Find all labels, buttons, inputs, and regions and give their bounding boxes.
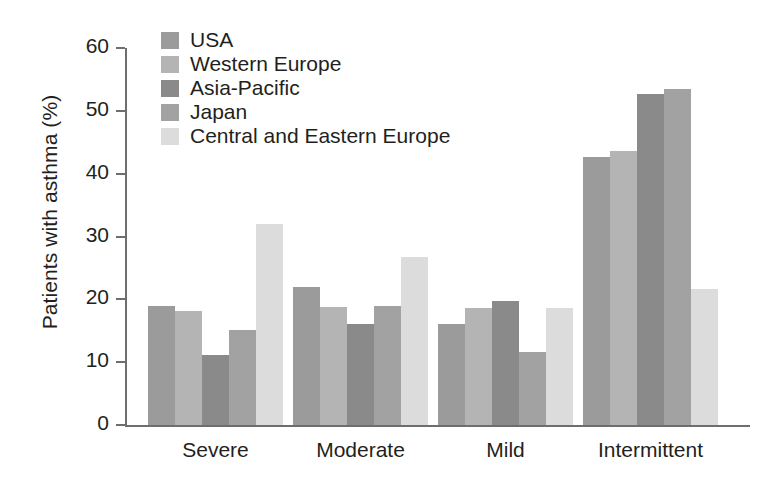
- legend: USAWestern EuropeAsia-PacificJapanCentra…: [161, 28, 450, 148]
- y-tick-0: 0: [116, 424, 125, 426]
- bar-intermittent-asia-pacific: [637, 94, 664, 425]
- x-axis-label-moderate: Moderate: [293, 438, 428, 462]
- bar-mild-usa: [438, 324, 465, 425]
- bar-intermittent-japan: [664, 89, 691, 425]
- bar-severe-usa: [148, 306, 175, 425]
- legend-item-japan: Japan: [161, 100, 450, 124]
- bar-moderate-usa: [293, 287, 320, 425]
- bar-group-mild: Mild: [438, 48, 573, 425]
- bar-moderate-japan: [374, 306, 401, 425]
- bar-intermittent-western-europe: [610, 151, 637, 425]
- legend-item-western-europe: Western Europe: [161, 52, 450, 76]
- x-axis-label-severe: Severe: [148, 438, 283, 462]
- bar-severe-japan: [229, 330, 256, 425]
- y-axis-line: [125, 48, 127, 425]
- legend-swatch-icon: [161, 128, 179, 145]
- bar-moderate-central-and-eastern-europe: [401, 257, 428, 425]
- bar-severe-asia-pacific: [202, 355, 229, 425]
- bar-moderate-asia-pacific: [347, 324, 374, 425]
- y-tick-30: 30: [116, 236, 125, 238]
- legend-item-central-and-eastern-europe: Central and Eastern Europe: [161, 124, 450, 148]
- y-tick-label-20: 20: [86, 285, 109, 309]
- y-tick-label-40: 40: [86, 160, 109, 184]
- legend-label: Central and Eastern Europe: [190, 124, 450, 148]
- bar-group-intermittent: Intermittent: [583, 48, 718, 425]
- legend-label: Western Europe: [190, 52, 341, 76]
- bar-mild-central-and-eastern-europe: [546, 308, 573, 425]
- bar-moderate-western-europe: [320, 307, 347, 425]
- bar-severe-western-europe: [175, 311, 202, 425]
- x-axis-label-mild: Mild: [438, 438, 573, 462]
- bar-mild-japan: [519, 352, 546, 426]
- y-tick-10: 10: [116, 361, 125, 363]
- bar-severe-central-and-eastern-europe: [256, 224, 283, 425]
- bar-mild-asia-pacific: [492, 301, 519, 425]
- legend-swatch-icon: [161, 80, 179, 97]
- x-axis-line: [125, 425, 750, 427]
- legend-swatch-icon: [161, 32, 179, 49]
- y-tick-60: 60: [116, 47, 125, 49]
- bar-intermittent-usa: [583, 157, 610, 425]
- legend-label: Japan: [190, 100, 247, 124]
- y-axis-title: Patients with asthma (%): [38, 12, 62, 412]
- legend-item-usa: USA: [161, 28, 450, 52]
- y-tick-label-30: 30: [86, 223, 109, 247]
- legend-label: USA: [190, 28, 233, 52]
- y-tick-label-0: 0: [97, 411, 109, 435]
- y-tick-40: 40: [116, 173, 125, 175]
- y-tick-50: 50: [116, 110, 125, 112]
- bar-mild-western-europe: [465, 308, 492, 425]
- bar-intermittent-central-and-eastern-europe: [691, 289, 718, 425]
- legend-swatch-icon: [161, 104, 179, 121]
- y-tick-label-50: 50: [86, 97, 109, 121]
- legend-label: Asia-Pacific: [190, 76, 300, 100]
- y-tick-label-10: 10: [86, 348, 109, 372]
- y-tick-20: 20: [116, 298, 125, 300]
- bar-chart: Patients with asthma (%) 6050403020100 S…: [0, 0, 772, 492]
- legend-item-asia-pacific: Asia-Pacific: [161, 76, 450, 100]
- y-tick-label-60: 60: [86, 34, 109, 58]
- x-axis-label-intermittent: Intermittent: [583, 438, 718, 462]
- legend-swatch-icon: [161, 56, 179, 73]
